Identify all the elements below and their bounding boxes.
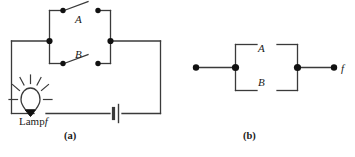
node-switch-a-left	[60, 8, 65, 13]
node-switch-b-right	[95, 61, 100, 66]
circuit-drawing	[0, 0, 355, 157]
lamp-ray-5	[42, 85, 49, 91]
output-f-label: f	[341, 62, 344, 74]
lamp-ray-3	[37, 78, 41, 86]
node-output-terminal	[331, 64, 337, 70]
panel-a-caption: (a)	[64, 130, 76, 141]
node-branch-right-junction	[107, 38, 113, 44]
circuit-figure: A B Lampf (a) A B f (b)	[0, 0, 355, 157]
switch-a-blade	[64, 2, 88, 11]
lamp-variable-label: f	[45, 115, 48, 127]
panel-b-caption: (b)	[243, 130, 256, 141]
lamp-ray-4	[13, 85, 20, 91]
node-switch-b-left	[60, 61, 65, 66]
lamp-ray-2	[20, 78, 24, 86]
lamp-light-rays	[9, 75, 52, 100]
panel-b-circuit	[193, 45, 337, 91]
contact-a-label: A	[258, 42, 265, 54]
panel-a-circuit	[9, 2, 161, 123]
switch-b-label: B	[75, 48, 82, 60]
lamp-label: Lampf	[19, 115, 48, 127]
node-input-terminal	[193, 64, 199, 70]
node-block-right-junction	[294, 64, 301, 71]
node-switch-a-right	[95, 8, 100, 13]
contact-b-label: B	[258, 76, 265, 88]
lamp-bulb-glass	[21, 88, 40, 110]
node-branch-left-junction	[46, 38, 52, 44]
node-block-left-junction	[232, 64, 239, 71]
lamp-label-text: Lamp	[19, 115, 45, 127]
switch-a-label: A	[75, 13, 82, 25]
